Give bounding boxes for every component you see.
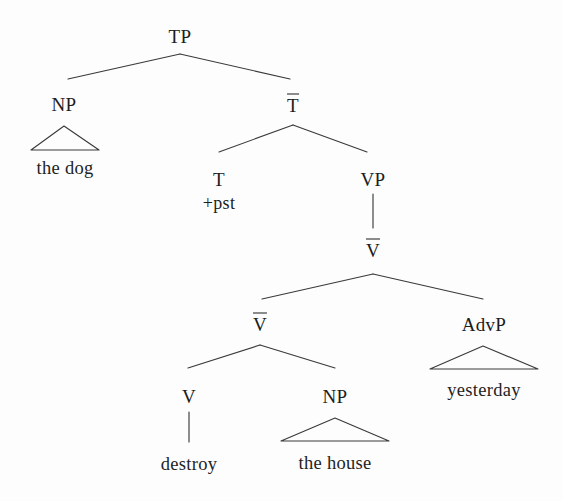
branch-vbar-top-to-vbar-lower [262,274,373,299]
node-v-bar-upper: V [366,239,380,260]
terminal-the-dog-label: the dog [36,158,93,178]
node-v-bar-lower: V [253,313,267,334]
terminal-yesterday-label: yesterday [447,380,521,400]
terminal-the-house: the house [298,454,371,473]
node-t-bar-label: T [287,94,299,115]
node-v-head-label: V [182,386,196,407]
branch-vbar-lower-to-v [188,345,260,368]
node-t-feature-past-label: +pst [203,193,235,213]
node-np-object: NP [323,387,348,406]
branch-tp-to-np [68,54,180,79]
branch-tp-to-tbar [180,54,290,79]
node-vp: VP [361,170,386,189]
node-t-feature-past: +pst [203,194,235,212]
terminal-the-dog: the dog [36,159,93,178]
terminal-destroy-label: destroy [161,454,218,474]
node-v-bar-upper-label: V [366,239,380,260]
node-advp-label: AdvP [462,314,507,335]
node-v-head: V [182,387,196,406]
np-subject-triangle [31,126,99,150]
terminal-the-house-label: the house [298,453,371,473]
terminal-destroy: destroy [161,455,218,474]
node-advp: AdvP [462,315,507,334]
branch-vbar-lower-to-np [260,345,335,368]
tree-edges-layer [0,0,563,501]
node-v-bar-lower-label: V [253,313,267,334]
node-np-subject: NP [52,95,77,114]
node-t-head: T [213,170,225,189]
branch-tbar-to-vp [293,125,367,152]
node-tp: TP [169,27,192,46]
node-np-object-label: NP [323,386,348,407]
np-object-triangle [281,418,389,441]
node-t-bar: T [287,94,299,115]
terminal-yesterday: yesterday [447,381,521,400]
branch-vbar-top-to-advp [373,274,483,299]
node-t-head-label: T [213,169,225,190]
node-vp-label: VP [361,169,386,190]
branch-lines [68,54,483,442]
syntax-tree-figure: TP NP the dog T T +pst VP V V AdvP yeste… [0,0,563,501]
node-np-subject-label: NP [52,94,77,115]
node-tp-label: TP [169,26,192,47]
branch-tbar-to-t [219,125,293,152]
advp-triangle [430,346,538,369]
